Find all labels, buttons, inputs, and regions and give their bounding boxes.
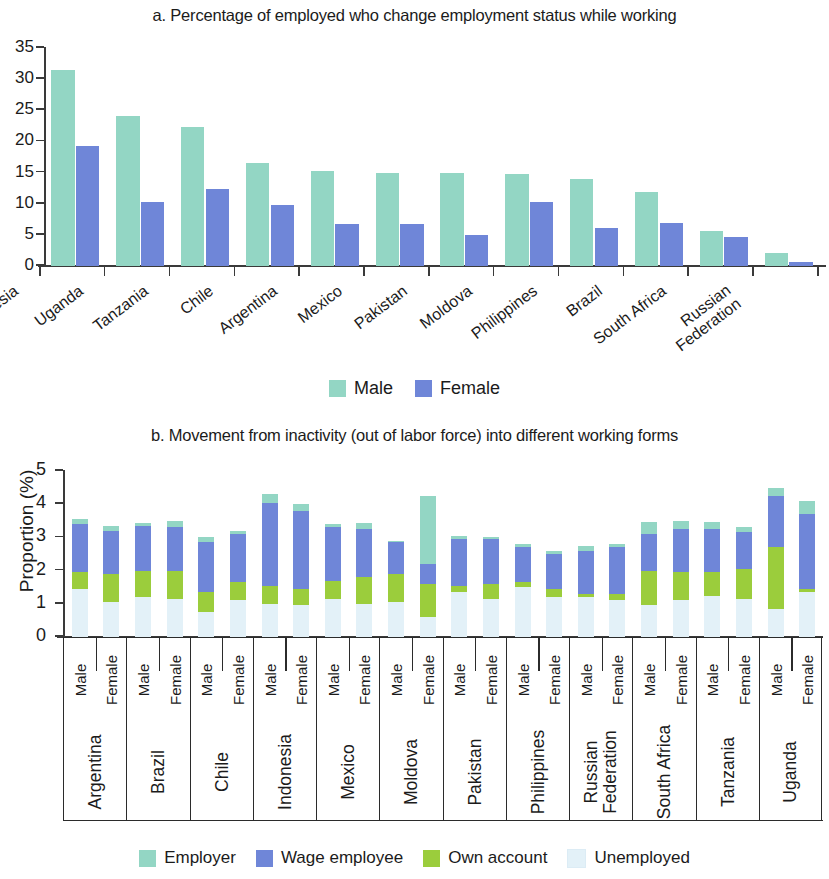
panel-b-stacked-bar [135,523,151,638]
panel-a-bar-group [499,47,564,266]
panel-b-country-sex-box: MaleFemale [63,637,126,723]
panel-a-y-tick [36,233,44,235]
panel-a-bar-group [175,47,240,266]
panel-a-bar-male [570,179,593,266]
panel-b-sex-divider [349,637,350,671]
panel-b-country-label: Moldova [401,739,422,805]
panel-b-stacked-bar [167,521,183,637]
panel-b-sex-cell: Female [159,637,191,723]
panel-a-bar-group [369,47,434,266]
panel-a-y-tick-label: 0 [0,256,34,273]
panel-b-bar-segment-own [356,577,372,604]
panel-b-sex-label: Female [482,655,499,705]
panel-b-country-label: RussianFederation [582,730,620,814]
panel-b-bar-segment-own [325,581,341,599]
panel-b-bar-segment-own [230,582,246,600]
panel-b-country-box: Brazil [126,723,189,821]
label-table-top-border [63,637,823,638]
panel-b-bar-segment-wage [103,531,119,574]
panel-b-country-box: RussianFederation [569,723,632,821]
panel-b-country-sex-box: MaleFemale [506,637,569,723]
panel-b-bar-segment-employer [704,522,720,529]
panel-b-bar-segment-wage [673,529,689,572]
panel-b-stacked-bar [736,527,752,637]
panel-b-country-label: South Africa [654,725,675,819]
panel-a-x-tick [298,266,300,276]
panel-b-stacked-bar [799,501,815,637]
panel-b-bar-segment-employer [673,521,689,529]
panel-b-bar-segment-own [293,589,309,606]
panel-b-bar-segment-unemployed [578,597,594,637]
panel-b-country-label: Pakistan [464,738,485,805]
panel-b-bar-segment-wage [167,527,183,570]
panel-b-legend-item[interactable]: Wage employee [256,848,403,868]
panel-b-country-box: Mexico [316,723,379,821]
panel-b-bar-segment-own [641,571,657,606]
panel-b-country-box: Chile [190,723,253,821]
panel-b-y-tick-label: 1 [20,593,46,611]
panel-b-x-label-table: MaleFemaleMaleFemaleMaleFemaleMaleFemale… [63,637,823,821]
panel-a-bar-female [206,189,229,266]
panel-b-bar-segment-wage [609,547,625,593]
panel-b-sex-cell: Male [127,637,159,723]
panel-b-sex-label: Female [293,655,310,705]
panel-b-sex-cell: Male [507,637,539,723]
panel-a-bar-male [51,70,74,266]
panel-b-sex-cell: Male [760,637,792,723]
panel-b-bar-segment-unemployed [451,592,467,637]
panel-b-sex-divider [412,637,413,671]
panel-a-bar-male [311,171,334,266]
panel-b-country-sex-box: MaleFemale [190,637,253,723]
label-table-bottom-border [63,820,823,821]
panel-b-stacked-bar [515,544,531,637]
panel-a-legend-item[interactable]: Female [415,378,500,399]
panel-a-bar-female [660,223,683,266]
panel-b-bar-segment-own [609,594,625,601]
panel-b-sex-divider [602,637,603,671]
panel-b-bar-segment-wage [388,542,404,574]
panel-b-legend-item[interactable]: Unemployed [567,848,689,868]
panel-a-bar-female [595,228,618,266]
panel-b-sex-label: Female [546,655,563,705]
panel-b-sex-cell: Female [285,637,317,723]
panel-b-country-label: Argentina [85,735,106,810]
panel-b-bar-segment-unemployed [768,609,784,637]
panel-b-bar-segment-employer [420,496,436,564]
panel-b-sex-label: Male [577,664,594,697]
panel-b-legend-item[interactable]: Employer [139,848,236,868]
panel-b-bar-segment-unemployed [167,599,183,637]
panel-a-bar-female [724,237,747,266]
panel-b-sex-cell: Male [380,637,412,723]
panel-b-sex-cell: Male [633,637,665,723]
panel-a-y-tick [36,108,44,110]
panel-b-country-box: Uganda [759,723,822,821]
panel-b-bar-segment-unemployed [230,600,246,637]
panel-b-bar-segment-wage [230,534,246,582]
panel-b-sex-divider [285,637,286,671]
panel-b-sex-label: Male [71,664,88,697]
panel-b-y-tick [55,536,63,538]
panel-b-legend-item[interactable]: Own account [423,848,547,868]
legend-swatch-icon [139,850,156,867]
panel-a-bar-female [76,146,99,266]
panel-b-bar-segment-own [103,574,119,602]
panel-b-country-sex-box: MaleFemale [569,637,632,723]
panel-a-x-tick [558,266,560,276]
panel-b-sex-cell: Female [412,637,444,723]
panel-b-bar-segment-employer [641,522,657,534]
panel-b-sex-divider [728,637,729,671]
panel-b-sex-cell: Male [317,637,349,723]
panel-a-y-tick [36,77,44,79]
panel-b-stacked-bar [546,551,562,637]
panel-b-stacked-bar [483,537,499,637]
panel-b-bar-segment-wage [135,526,151,571]
panel-a-y-tick-label: 25 [0,100,34,117]
panel-b-stacked-bar [578,546,594,637]
panel-b-bar-segment-unemployed [799,592,815,637]
panel-b-bar-segment-unemployed [388,602,404,637]
panel-a-x-tick [169,266,171,276]
panel-b-sex-label: Female [229,655,246,705]
panel-b-country-label: Mexico [338,744,359,799]
panel-a-legend-item[interactable]: Male [329,378,393,399]
panel-a-x-tick [493,266,495,276]
